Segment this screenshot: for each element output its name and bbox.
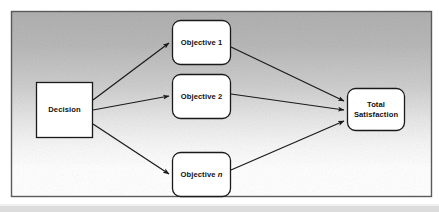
node-objective-n[interactable] (173, 153, 231, 197)
node-objective-2[interactable] (173, 75, 231, 119)
diagram-figure: Decision Objective 1 Objective 2 Objecti… (0, 0, 439, 215)
bottom-band (0, 206, 439, 212)
diagram-canvas (0, 0, 439, 215)
node-objective-1[interactable] (173, 21, 231, 65)
node-total-satisfaction[interactable] (348, 89, 405, 131)
bottom-band-shadow (0, 204, 439, 206)
node-decision[interactable] (37, 83, 93, 138)
